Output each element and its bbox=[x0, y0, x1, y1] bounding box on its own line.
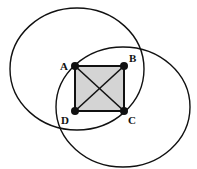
geometry-diagram: A B C D bbox=[0, 0, 197, 169]
label-b: B bbox=[129, 52, 137, 64]
point-a bbox=[71, 62, 79, 70]
point-b bbox=[120, 62, 128, 70]
label-c: C bbox=[128, 114, 136, 126]
point-d bbox=[71, 107, 79, 115]
label-d: D bbox=[61, 114, 69, 126]
point-c bbox=[120, 107, 128, 115]
label-a: A bbox=[60, 60, 68, 72]
